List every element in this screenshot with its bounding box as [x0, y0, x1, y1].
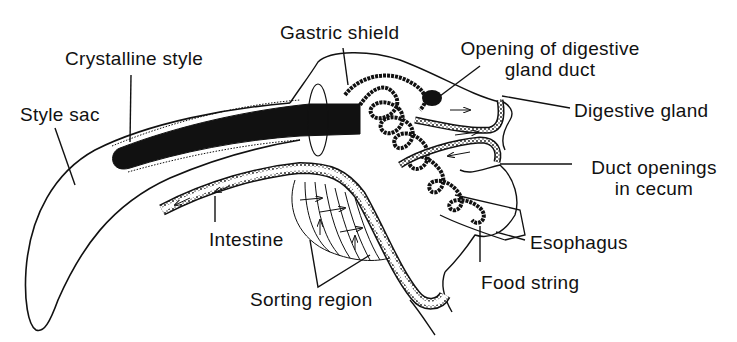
- label-digestive-gland: Digestive gland: [574, 100, 708, 121]
- label-opening-line1: Opening of digestive: [440, 38, 660, 59]
- label-opening-line2: gland duct: [440, 59, 660, 80]
- label-gastric-shield: Gastric shield: [280, 22, 399, 43]
- label-duct-openings-line1: Duct openings: [574, 157, 734, 178]
- label-esophagus: Esophagus: [530, 232, 628, 253]
- label-opening-of-digestive-gland-duct: Opening of digestive gland duct: [440, 38, 660, 80]
- label-sorting-region: Sorting region: [250, 289, 373, 310]
- leader-digestive-gland: [502, 96, 570, 108]
- digestive-gland-duct-opening: [422, 90, 442, 106]
- leader-style-sac: [55, 128, 75, 185]
- label-style-sac: Style sac: [20, 104, 100, 125]
- label-intestine: Intestine: [209, 229, 284, 250]
- label-duct-openings-in-cecum: Duct openings in cecum: [574, 157, 734, 199]
- label-duct-openings-line2: in cecum: [574, 178, 734, 199]
- leader-crystalline-style: [130, 75, 131, 142]
- label-crystalline-style: Crystalline style: [65, 48, 203, 69]
- label-food-string: Food string: [481, 272, 579, 293]
- intestine-tube: [162, 168, 445, 304]
- digestive-gland-ducts: [400, 90, 501, 165]
